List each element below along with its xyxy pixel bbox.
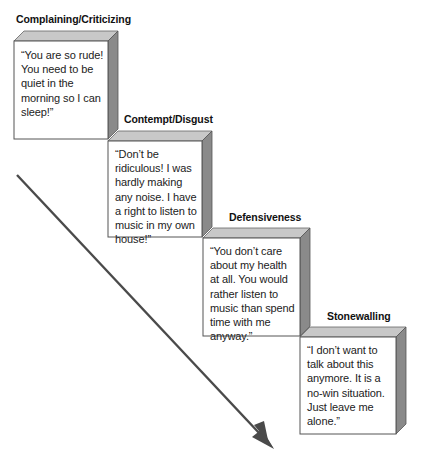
step-quote-stonewalling: “I don’t want to talk about this anymore… — [307, 343, 395, 428]
step-quote-defensiveness: “You don’t care about my health at all. … — [210, 244, 298, 343]
step-label-complaining: Complaining/Criticizing — [16, 13, 131, 25]
step-label-stonewalling: Stonewalling — [327, 310, 391, 322]
staircase-diagram: Complaining/Criticizing Contempt/Disgust… — [0, 0, 421, 453]
step-label-defensiveness: Defensiveness — [229, 211, 301, 223]
step-quote-contempt: “Don’t be ridiculous! I was hardly makin… — [115, 147, 201, 246]
step-quote-complaining: “You are so rude! You need to be quiet i… — [21, 48, 105, 119]
step-label-contempt: Contempt/Disgust — [124, 113, 213, 125]
